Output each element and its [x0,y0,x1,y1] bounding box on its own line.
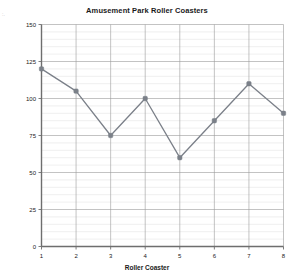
x-tick-label: 8 [282,253,286,259]
data-point-marker [108,133,112,137]
y-tick-label: 25 [29,207,36,213]
y-tick-label: 100 [26,96,37,102]
y-tick-label: 0 [33,244,37,250]
y-tick-labels: 0255075100125150 [26,22,37,250]
chart-container: :. Amusement Park Roller Coasters Speed … [0,0,294,280]
data-point-marker [212,119,216,123]
x-tick-label: 4 [144,253,148,259]
x-tick-label: 3 [109,253,113,259]
data-point-marker [281,111,285,115]
plot-area: 0255075100125150 12345678 [0,0,294,280]
data-point-marker [143,96,147,100]
y-tick-label: 75 [29,133,36,139]
y-tick-label: 150 [26,22,37,28]
x-tick-label: 6 [213,253,217,259]
x-tick-label: 7 [247,253,251,259]
data-point-marker [74,89,78,93]
x-tick-label: 1 [40,253,44,259]
x-tick-label: 2 [74,253,78,259]
data-point-marker [39,67,43,71]
data-point-marker [178,156,182,160]
x-tick-label: 5 [178,253,182,259]
y-tick-label: 125 [26,59,37,65]
y-tick-label: 50 [29,170,36,176]
major-gridlines [42,25,284,210]
x-tick-labels: 12345678 [40,253,286,259]
data-point-marker [247,82,251,86]
